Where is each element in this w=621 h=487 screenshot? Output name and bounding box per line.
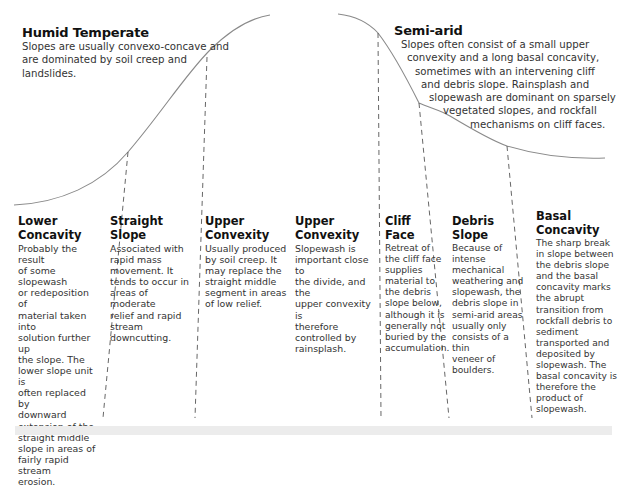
column-title: Upper Convexity [295,215,379,242]
title-line: Cliff [385,215,447,229]
desc-line: the divide, and the [295,276,379,298]
title-line: Upper [295,215,379,229]
semi-arid-desc-line: slopewash are dominant on sparsely [429,91,621,104]
desc-line: the slope. The [18,354,100,365]
desc-line: the debris slope [536,260,618,271]
desc-line: erosion. [18,476,100,487]
desc-line: often replaced by [18,387,100,409]
desc-line: therefore the [536,382,618,393]
desc-line: mechanical [452,265,528,276]
title-line: Slope [452,229,528,243]
desc-line: the debris [385,287,447,298]
column-title: Cliff Face [385,215,447,242]
desc-line: in slope between [536,249,618,260]
column-description: Slopewash is important close to the divi… [295,243,379,354]
column-debris-slope: Debris Slope Because of intense mechanic… [452,215,528,376]
semi-arid-desc-line: and debris slope. Rainsplash and [421,78,621,91]
desc-line: therefore [295,321,379,332]
desc-line: generally not [385,321,447,332]
column-title: Basal Concavity [536,210,618,237]
desc-line: sediment [536,327,618,338]
column-description: Associated with rapid mass movement. It … [110,243,192,343]
semi-arid-description: Slopes often consist of a small upper co… [0,38,621,131]
semi-arid-desc-line: convexity and a long basal concavity, [407,51,621,64]
desc-line: rainsplash. [295,343,379,354]
desc-line: usually only [452,321,528,332]
column-title: Lower Concavity [18,215,100,242]
desc-line: of some slopewash [18,265,100,287]
title-line: Convexity [295,229,379,243]
desc-line: slope in areas of [18,443,100,454]
desc-line: The sharp break [536,238,618,249]
desc-line: tends to occur in [110,276,192,287]
desc-line: rapid mass [110,254,192,265]
desc-line: rockfall debris to [536,316,618,327]
desc-line: transported and [536,338,618,349]
desc-line: Associated with [110,243,192,254]
desc-line: boulders. [452,365,528,376]
column-description: Usually produced by soil creep. It may r… [205,243,289,310]
desc-line: the cliff face [385,254,447,265]
desc-line: semi-arid areas [452,310,528,321]
desc-line: lower slope unit is [18,365,100,387]
column-description: Retreat of the cliff face supplies mater… [385,243,447,354]
column-straight-slope: Straight Slope Associated with rapid mas… [110,215,192,343]
desc-line: solution further up [18,332,100,354]
desc-line: supplies [385,265,447,276]
column-lower-concavity: Lower Concavity Probably the result of s… [18,215,100,487]
desc-line: segment in areas [205,287,289,298]
semi-arid-desc-line: Slopes often consist of a small upper [401,38,621,51]
desc-line: controlled by [295,332,379,343]
desc-line: intense [452,254,528,265]
desc-line: by soil creep. It [205,254,289,265]
semi-arid-title: Semi-arid [394,23,463,38]
desc-line: stream [110,321,192,332]
desc-line: buried by the [385,332,447,343]
title-line: Concavity [536,224,618,238]
desc-line: movement. It [110,265,192,276]
title-line: Concavity [18,229,100,243]
desc-line: important close to [295,254,379,276]
desc-line: Usually produced [205,243,289,254]
desc-line: Probably the result [18,243,100,265]
column-cliff-face: Cliff Face Retreat of the cliff face sup… [385,215,447,354]
column-upper-convexity-humid: Upper Convexity Usually produced by soil… [205,215,289,310]
desc-line: slopewash, the [452,287,528,298]
desc-line: straight middle [205,276,289,287]
desc-line: Retreat of [385,243,447,254]
column-description: Probably the result of some slopewash or… [18,243,100,487]
desc-line: consists of a thin [452,332,528,354]
desc-line: downcutting. [110,332,192,343]
title-line: Face [385,229,447,243]
desc-line: basal concavity is [536,371,618,382]
column-description: Because of intense mechanical weathering… [452,243,528,376]
title-line: Convexity [205,229,289,243]
desc-line: accumulation. [385,343,447,354]
desc-line: Slopewash is [295,243,379,254]
desc-line: weathering and [452,276,528,287]
desc-line: product of [536,393,618,404]
desc-line: areas of moderate [110,287,192,309]
semi-arid-desc-line: vegetated slopes, and rockfall [443,104,621,117]
column-upper-convexity-semi-arid: Upper Convexity Slopewash is important c… [295,215,379,354]
title-line: Upper [205,215,289,229]
column-description: The sharp break in slope between the deb… [536,238,618,416]
desc-line: material to [385,276,447,287]
desc-line: veneer of [452,354,528,365]
desc-line: although it is [385,310,447,321]
desc-line: downward [18,409,100,420]
desc-line: relief and rapid [110,310,192,321]
semi-arid-desc-line: sometimes with an intervening cliff [415,65,621,78]
desc-line: of low relief. [205,298,289,309]
title-line: Debris [452,215,528,229]
desc-line: deposited by [536,349,618,360]
desc-line: material taken into [18,310,100,332]
desc-line: or redeposition of [18,287,100,309]
desc-line: may replace the [205,265,289,276]
desc-line: the abrupt [536,293,618,304]
desc-line: and the basal [536,271,618,282]
semi-arid-desc-line: mechanisms on cliff faces. [470,118,621,131]
desc-line: Because of [452,243,528,254]
desc-line: concavity marks [536,282,618,293]
desc-line: upper convexity is [295,298,379,320]
